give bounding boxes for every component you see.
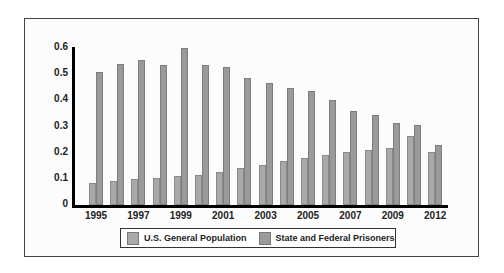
chart-legend: U.S. General Population State and Federa… — [120, 228, 396, 248]
bar-general-population — [89, 183, 96, 205]
y-tick-label: 0 — [44, 198, 68, 209]
bar-prisoners — [435, 145, 442, 205]
x-tick-label: 2001 — [203, 210, 243, 221]
x-tick-label: 2009 — [373, 210, 413, 221]
bar-general-population — [428, 152, 435, 205]
bar-prisoners — [266, 83, 273, 205]
y-tick-label: 0.6 — [44, 41, 68, 52]
bar-general-population — [110, 181, 117, 205]
x-tick-label: 2003 — [246, 210, 286, 221]
y-tick-label: 0.1 — [44, 172, 68, 183]
y-tick-label: 0.5 — [44, 67, 68, 78]
bar-prisoners — [372, 115, 379, 205]
bar-prisoners — [329, 100, 336, 205]
bar-general-population — [216, 172, 223, 205]
y-tick-label: 0.3 — [44, 120, 68, 131]
bar-prisoners — [393, 123, 400, 205]
bar-general-population — [386, 148, 393, 205]
bar-general-population — [280, 161, 287, 205]
bar-general-population — [237, 168, 244, 205]
bar-prisoners — [181, 48, 188, 205]
bar-general-population — [259, 165, 266, 205]
x-tick-label: 1999 — [161, 210, 201, 221]
bar-prisoners — [223, 67, 230, 205]
bar-prisoners — [117, 64, 124, 205]
bar-prisoners — [202, 65, 209, 205]
legend-label-prisoners: State and Federal Prisoners — [276, 233, 395, 243]
legend-label-general: U.S. General Population — [144, 233, 247, 243]
bar-general-population — [174, 176, 181, 205]
bar-prisoners — [138, 60, 145, 205]
x-axis — [72, 205, 448, 208]
bar-prisoners — [414, 125, 421, 205]
y-tick-label: 0.4 — [44, 93, 68, 104]
x-tick-label: 1997 — [118, 210, 158, 221]
bar-general-population — [407, 136, 414, 205]
bar-prisoners — [160, 65, 167, 205]
bar-general-population — [195, 175, 202, 205]
bar-prisoners — [287, 88, 294, 205]
bar-general-population — [322, 155, 329, 205]
bar-prisoners — [244, 78, 251, 205]
x-tick-label: 2005 — [288, 210, 328, 221]
bar-prisoners — [96, 72, 103, 205]
bar-general-population — [153, 178, 160, 205]
y-axis — [72, 47, 75, 207]
x-tick-label: 2007 — [330, 210, 370, 221]
bar-general-population — [343, 152, 350, 205]
x-tick-label: 2012 — [415, 210, 455, 221]
legend-swatch-general — [127, 232, 139, 245]
bar-general-population — [301, 158, 308, 205]
bar-general-population — [131, 179, 138, 205]
bar-prisoners — [350, 111, 357, 205]
legend-swatch-prisoners — [259, 232, 271, 245]
bar-general-population — [365, 150, 372, 205]
y-tick-label: 0.2 — [44, 146, 68, 157]
x-tick-label: 1995 — [76, 210, 116, 221]
bar-prisoners — [308, 91, 315, 205]
